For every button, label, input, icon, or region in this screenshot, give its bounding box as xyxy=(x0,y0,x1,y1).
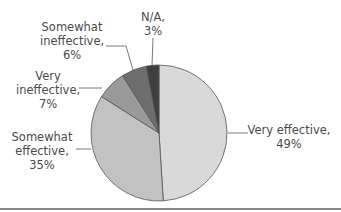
pie-slice-very-effective xyxy=(159,65,227,201)
label-very-ineffective: Very ineffective, 7% xyxy=(16,69,80,111)
pie-slices xyxy=(91,65,227,201)
leader-na xyxy=(152,38,153,66)
label-somewhat-effective: Somewhat effective, 35% xyxy=(10,130,74,172)
label-somewhat-ineffective: Somewhat ineffective, 6% xyxy=(40,20,104,62)
bottom-rule xyxy=(0,208,341,210)
leader-somewhat-ineffective xyxy=(106,46,133,70)
label-na: N/A, 3% xyxy=(133,10,173,38)
label-very-effective: Very effective, 49% xyxy=(246,123,332,151)
